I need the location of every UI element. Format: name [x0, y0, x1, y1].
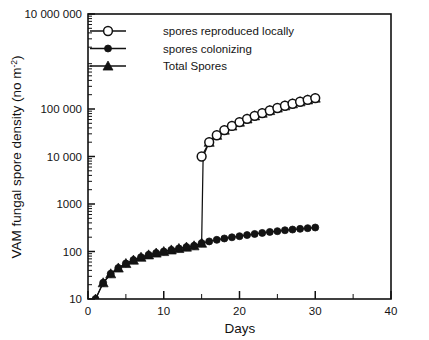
legend-label: Total Spores — [163, 60, 227, 72]
x-tick-label: 0 — [85, 305, 91, 317]
legend-label: spores colonizing — [163, 43, 252, 55]
data-point-filled-circle — [289, 226, 296, 233]
data-point-filled-circle — [259, 229, 266, 236]
data-point-filled-circle — [160, 248, 167, 255]
data-point-filled-circle — [92, 296, 99, 303]
x-tick-label: 30 — [309, 305, 322, 317]
data-point-filled-circle — [206, 238, 213, 245]
data-point-filled-circle — [312, 224, 319, 231]
x-axis-title: Days — [225, 321, 256, 336]
data-point-filled-circle — [138, 254, 145, 261]
data-point-filled-circle — [107, 270, 114, 277]
data-point-filled-circle — [145, 251, 152, 258]
data-point-filled-circle — [213, 236, 220, 243]
data-point-filled-circle — [105, 45, 112, 52]
data-point-filled-circle — [191, 242, 198, 249]
data-point-filled-circle — [168, 246, 175, 253]
data-point-filled-circle — [251, 230, 258, 237]
y-axis-title-tail: ) — [9, 55, 24, 60]
data-point-filled-circle — [281, 227, 288, 234]
data-point-filled-circle — [115, 264, 122, 271]
legend-label: spores reproduced locally — [163, 25, 294, 37]
data-point-filled-circle — [304, 225, 311, 232]
x-axis-tick-labels: 010203040 — [85, 305, 398, 317]
x-tick-label: 10 — [157, 305, 170, 317]
data-point-open-circle — [205, 138, 214, 147]
chart-canvas: 10100100010 000100 00010 000 000 0102030… — [0, 0, 429, 340]
data-point-filled-circle — [100, 279, 107, 286]
data-point-open-circle — [197, 152, 206, 161]
data-point-filled-circle — [266, 228, 273, 235]
data-point-open-circle — [311, 94, 320, 103]
data-point-filled-circle — [183, 244, 190, 251]
y-axis-tick-labels: 10100100010 000100 00010 000 000 — [24, 8, 82, 305]
y-tick-label: 10 — [69, 293, 82, 305]
y-tick-label: 1000 — [56, 198, 82, 210]
data-point-filled-circle — [153, 249, 160, 256]
y-tick-label: 10 000 000 — [24, 8, 82, 20]
data-point-filled-circle — [221, 235, 228, 242]
x-tick-label: 20 — [233, 305, 246, 317]
svg-text:VAM fungal spore density (no m: VAM fungal spore density (no m-2) — [9, 55, 24, 258]
y-tick-label: 10 000 — [47, 151, 82, 163]
data-point-filled-circle — [122, 260, 129, 267]
x-tick-label: 40 — [385, 305, 398, 317]
y-axis-title-text: VAM fungal spore density (no m — [9, 67, 24, 258]
y-axis-title: VAM fungal spore density (no m-2) — [9, 55, 24, 258]
chart-figure: 10100100010 000100 00010 000 000 0102030… — [0, 0, 429, 340]
y-tick-label: 100 — [63, 246, 82, 258]
data-point-filled-circle — [236, 233, 243, 240]
data-point-open-circle — [104, 27, 113, 36]
data-point-filled-circle — [198, 240, 205, 247]
y-tick-label: 100 000 — [40, 103, 82, 115]
data-point-filled-circle — [228, 234, 235, 241]
data-point-filled-circle — [297, 225, 304, 232]
data-point-filled-circle — [130, 257, 137, 264]
data-point-filled-circle — [244, 232, 251, 239]
data-point-filled-circle — [274, 228, 281, 235]
data-point-filled-circle — [175, 245, 182, 252]
